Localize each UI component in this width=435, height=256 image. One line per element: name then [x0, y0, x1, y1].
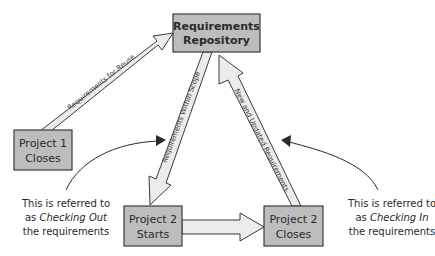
arrowhead-checking-in-icon	[281, 135, 291, 147]
label-project1-line2: Closes	[25, 152, 61, 165]
note-out-line3: the requirements	[23, 226, 110, 237]
label-repository-line2: Repository	[183, 34, 250, 47]
label-project2-starts-line2: Starts	[137, 228, 170, 241]
curve-checking-out	[66, 141, 158, 190]
annotation-checking-out: This is referred to as Checking Out the …	[21, 198, 110, 237]
note-in-line1: This is referred to	[347, 198, 435, 209]
note-in-prefix: as	[355, 212, 370, 223]
node-project1-closes: Project 1 Closes	[14, 130, 72, 170]
arrow-requirements-within-scope: Requirements Within Scope	[149, 52, 212, 205]
label-project2-closes-line2: Closes	[276, 228, 312, 241]
label-repository-line1: Requirements	[173, 20, 260, 33]
node-project2-starts: Project 2 Starts	[124, 206, 182, 246]
pointer-checking-in	[281, 135, 378, 190]
node-project2-closes: Project 2 Closes	[264, 206, 323, 246]
block-arrow-starts-closes	[182, 213, 264, 241]
node-requirements-repository: Requirements Repository	[173, 14, 260, 52]
label-requirements-within-scope: Requirements Within Scope	[161, 70, 202, 163]
label-requirements-for-reuse: Requirements for Reuse	[66, 53, 136, 112]
label-project1-line1: Project 1	[19, 137, 67, 150]
note-out-emphasis: Checking Out	[39, 212, 108, 223]
note-out-line2: as Checking Out	[25, 212, 108, 223]
requirements-reuse-diagram: Requirements for Reuse Requirements With…	[0, 0, 435, 256]
annotation-checking-in: This is referred to as Checking In the r…	[347, 198, 435, 237]
arrow-starts-to-closes	[182, 213, 264, 241]
arrow-new-and-updated-requirements: New and Updated Requirements	[219, 55, 301, 206]
curve-checking-in	[289, 142, 378, 190]
note-in-emphasis: Checking In	[370, 212, 429, 223]
arrowhead-checking-out-icon	[156, 135, 166, 146]
label-project2-starts-line1: Project 2	[129, 213, 177, 226]
note-out-prefix: as	[25, 212, 40, 223]
label-project2-closes-line1: Project 2	[269, 213, 317, 226]
note-out-line1: This is referred to	[21, 198, 110, 209]
arrow-requirements-for-reuse: Requirements for Reuse	[40, 33, 173, 131]
note-in-line2: as Checking In	[355, 212, 428, 223]
note-in-line3: the requirements	[349, 226, 435, 237]
